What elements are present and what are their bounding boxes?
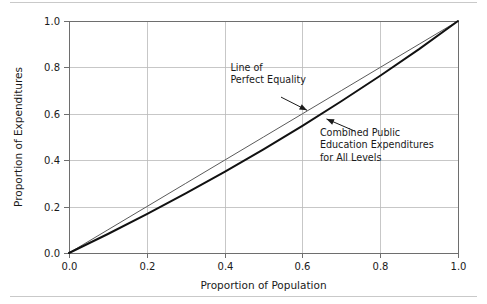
x-tick-label: 0.0 xyxy=(62,261,78,272)
equality-annotation-line: Perfect Equality xyxy=(230,74,306,85)
lorenz-annotation-line: for All Levels xyxy=(320,152,382,163)
x-tick-label: 0.4 xyxy=(218,261,234,272)
x-tick-label: 0.2 xyxy=(140,261,156,272)
lorenz-annotation-line: Education Expenditures xyxy=(320,139,434,150)
x-tick-label: 0.8 xyxy=(373,261,389,272)
lorenz-annotation-line: Combined Public xyxy=(320,127,400,138)
lorenz-annotation-text: Combined PublicEducation Expendituresfor… xyxy=(320,127,434,163)
equality-annotation-arrow-head xyxy=(299,104,307,110)
x-tick-label: 1.0 xyxy=(451,261,467,272)
chart-page: 0.00.20.40.60.81.00.00.20.40.60.81.0 Lin… xyxy=(0,0,487,304)
equality-annotation-text: Line ofPerfect Equality xyxy=(230,62,306,86)
y-tick-label: 0.2 xyxy=(44,202,60,213)
annotations-group: Line ofPerfect EqualityCombined PublicEd… xyxy=(230,62,433,163)
y-tick-label: 0.0 xyxy=(44,248,60,259)
x-tick-label: 0.6 xyxy=(295,261,311,272)
y-tick-label: 0.8 xyxy=(44,62,60,73)
y-tick-label: 0.6 xyxy=(44,109,60,120)
y-axis-title: Proportion of Expenditures xyxy=(12,67,24,207)
x-axis-title: Proportion of Population xyxy=(200,279,326,291)
lorenz-curve-chart: 0.00.20.40.60.81.00.00.20.40.60.81.0 Lin… xyxy=(0,0,487,304)
y-tick-label: 0.4 xyxy=(44,155,60,166)
y-tick-label: 1.0 xyxy=(44,16,60,27)
equality-annotation-line: Line of xyxy=(230,62,263,73)
lorenz-annotation-arrow-head xyxy=(327,119,335,125)
